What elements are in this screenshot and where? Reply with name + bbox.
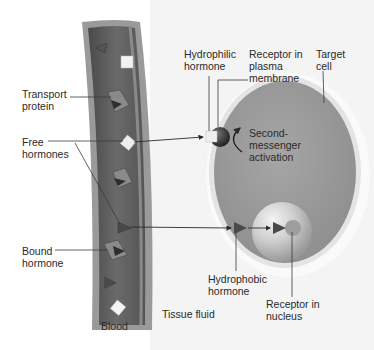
label-receptor-nucleus: Receptor in nucleus: [266, 298, 320, 322]
label-hydrophobic-hormone: Hydrophobic hormone: [208, 273, 267, 297]
label-second-messenger: Second- messenger activation: [249, 127, 301, 163]
label-transport-protein: Transport protein: [22, 88, 67, 112]
nucleus: [252, 202, 312, 262]
label-target-cell: Target cell: [316, 48, 345, 72]
label-receptor-plasma-membrane: Receptor in plasma membrane: [249, 48, 303, 84]
label-blood: Blood: [101, 320, 128, 332]
label-bound-hormone: Bound hormone: [22, 245, 63, 269]
label-hydrophilic-hormone: Hydrophilic hormone: [184, 48, 236, 72]
label-free-hormones: Free hormones: [22, 136, 69, 160]
hydrophilic-hormone: [206, 131, 217, 142]
nuclear-receptor: [285, 220, 301, 236]
hormone-transport-diagram: Transport protein Free hormones Bound ho…: [0, 0, 374, 350]
label-tissue-fluid: Tissue fluid: [162, 308, 215, 320]
free-square-hormone-1: [121, 56, 133, 68]
